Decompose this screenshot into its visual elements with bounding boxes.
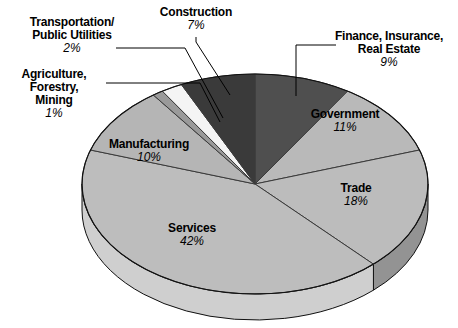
label-government: Government 11% [300,108,390,134]
label-finance-name: Finance, Insurance, Real Estate [324,30,454,56]
label-trade: Trade 18% [326,182,386,208]
label-services-pct: 42% [152,235,232,248]
label-manufacturing: Manufacturing 10% [96,138,202,164]
label-transportation: Transportation/ Public Utilities 2% [6,16,138,55]
label-transportation-pct: 2% [6,42,138,55]
label-trade-pct: 18% [326,195,386,208]
label-construction-pct: 7% [140,19,252,32]
label-agriculture-pct: 1% [2,107,106,120]
label-transportation-name: Transportation/ Public Utilities [6,16,138,42]
label-manufacturing-pct: 10% [96,151,202,164]
label-government-pct: 11% [300,121,390,134]
label-agriculture: Agriculture, Forestry, Mining 1% [2,68,106,120]
pie-chart: Transportation/ Public Utilities 2% Agri… [0,0,458,328]
label-finance: Finance, Insurance, Real Estate 9% [324,30,454,69]
label-finance-pct: 9% [324,56,454,69]
label-services: Services 42% [152,222,232,248]
label-construction: Construction 7% [140,6,252,32]
label-agriculture-name: Agriculture, Forestry, Mining [2,68,106,107]
